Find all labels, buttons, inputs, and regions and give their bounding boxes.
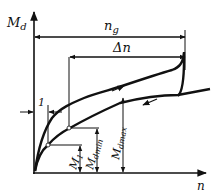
one-label: 1 [38,96,45,109]
m1-label: M1 [66,151,85,172]
m1-point-marker [46,143,50,147]
mdmin-label: Mdmin [83,137,105,172]
delta-n-label: Δn [112,40,131,55]
torque-speed-diagram: Md n ng Δn 1 M1 Mdmin Mdmax [0,0,224,194]
mdmax-label: Mdmax [109,125,129,162]
x-axis-label: n [197,179,205,193]
lower-direction-arrow [143,99,157,105]
ng-label: ng [104,18,119,35]
mdmin-point-marker [67,126,71,130]
y-axis-label: Md [6,15,27,32]
